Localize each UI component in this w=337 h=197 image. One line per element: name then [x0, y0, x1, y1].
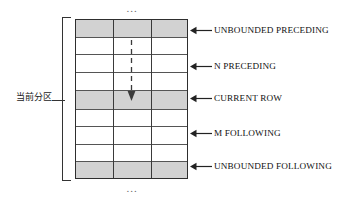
callout-unbounded-following: UNBOUNDED FOLLOWING — [190, 160, 332, 172]
left-arrow-icon — [190, 129, 212, 138]
callout-label: UNBOUNDED PRECEDING — [214, 25, 329, 35]
left-arrow-icon — [190, 94, 212, 103]
left-arrow-icon — [190, 26, 212, 35]
table-row — [76, 127, 187, 145]
table-row — [76, 162, 187, 178]
column-separator-2 — [151, 20, 152, 178]
window-frame-diagram: ... 当前分区 UNBOUNDED PRECEDING — [0, 0, 337, 197]
callout-label: UNBOUNDED FOLLOWING — [214, 161, 332, 171]
callout-label: M FOLLOWING — [214, 128, 281, 138]
callout-label: N PRECEDING — [214, 61, 276, 71]
dashed-down-arrow-icon — [125, 40, 138, 102]
table-row — [76, 110, 187, 127]
callout-n-preceding: N PRECEDING — [190, 60, 276, 72]
table-row — [76, 145, 187, 162]
callout-m-following: M FOLLOWING — [190, 127, 281, 139]
ellipsis-top: ... — [120, 3, 144, 13]
column-separator-1 — [113, 20, 114, 178]
left-arrow-icon — [190, 62, 212, 71]
left-arrow-icon — [190, 162, 212, 171]
callout-label: CURRENT ROW — [214, 93, 282, 103]
callout-current-row: CURRENT ROW — [190, 92, 282, 104]
partition-leader-arrow-icon — [52, 98, 66, 103]
partition-label: 当前分区 — [4, 90, 52, 103]
ellipsis-bottom: ... — [120, 183, 144, 193]
callout-unbounded-preceding: UNBOUNDED PRECEDING — [190, 24, 329, 36]
table-row — [76, 20, 187, 38]
